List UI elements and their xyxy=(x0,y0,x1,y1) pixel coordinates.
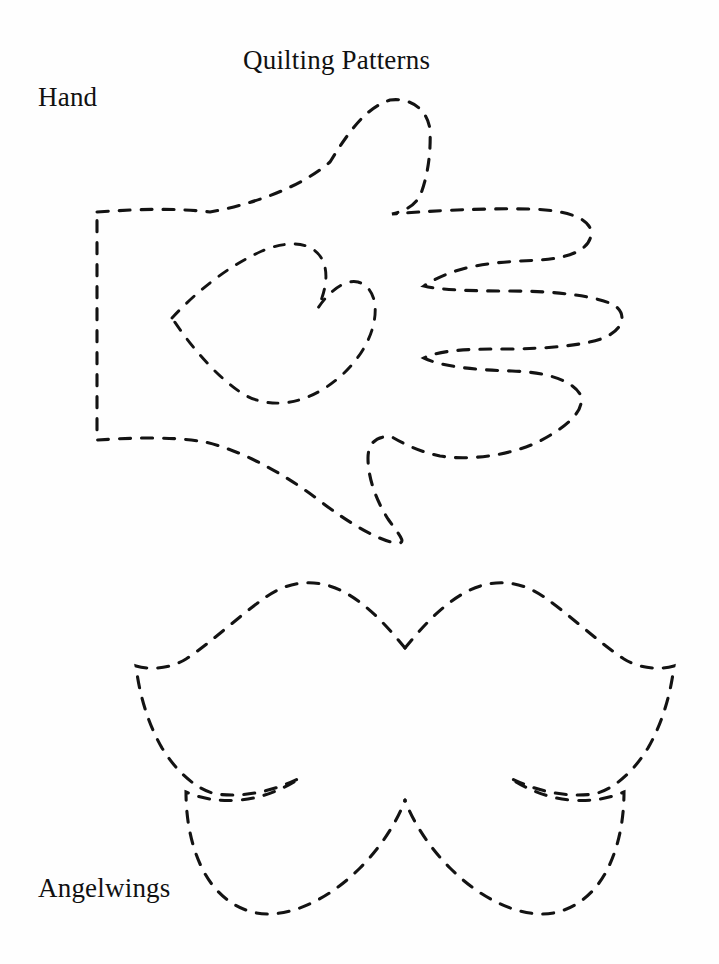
pattern-page: Quilting Patterns Hand Angelwings xyxy=(0,0,719,964)
hand-heart-cutout-path xyxy=(172,244,375,403)
angelwings-left-wing-path xyxy=(136,583,405,914)
pattern-label-angelwings: Angelwings xyxy=(38,873,171,903)
pattern-label-hand: Hand xyxy=(38,82,97,112)
page-title: Quilting Patterns xyxy=(243,45,430,75)
angelwings-right-wing-path xyxy=(405,583,674,914)
hand-outline-path xyxy=(97,100,622,543)
pattern-drawing-layer xyxy=(0,0,719,964)
hand-pattern-group xyxy=(97,100,622,543)
angelwings-pattern-group xyxy=(136,583,674,914)
